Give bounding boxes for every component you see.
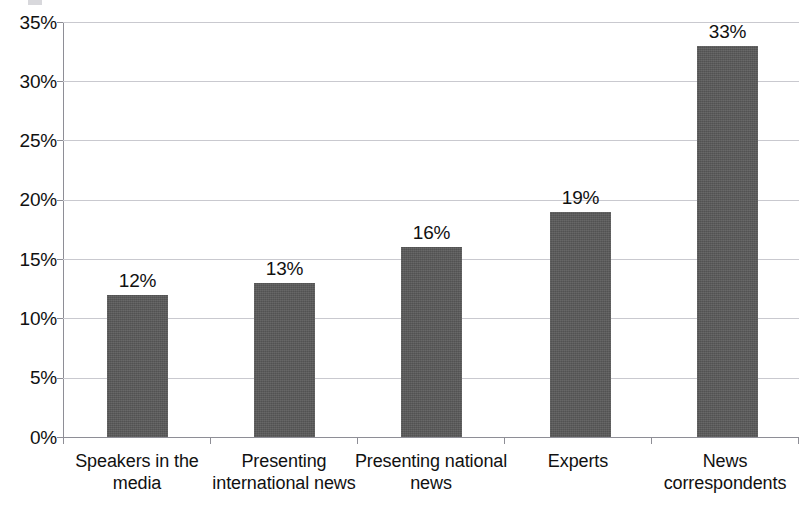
- y-axis-tick-label-5: 5%: [1, 368, 57, 387]
- bar-presenting-national-news: [401, 247, 462, 437]
- x-axis-tick-3: [504, 437, 505, 444]
- bar-value-label-2: 16%: [372, 223, 492, 242]
- bar-value-label-0: 12%: [78, 271, 198, 290]
- bar-speakers-in-the-media: [107, 295, 168, 437]
- y-axis-tick-label-25: 25%: [1, 131, 57, 150]
- x-axis-tick-0: [63, 437, 64, 444]
- bar-news-correspondents: [697, 46, 758, 437]
- x-axis-tick-2: [357, 437, 358, 444]
- y-axis-tick-label-15: 15%: [1, 250, 57, 269]
- x-axis-line: [63, 437, 799, 438]
- gridline-25: [63, 140, 799, 141]
- plot-area: 12% 13% 16% 19% 33%: [63, 22, 799, 437]
- x-axis-category-label-2: Presenting national news: [351, 450, 511, 494]
- bar-value-label-1: 13%: [225, 259, 345, 278]
- bar-chart: 35% 30% 25% 20% 15% 10% 5% 0% 12%: [0, 0, 799, 513]
- y-axis-tick-label-0: 0%: [1, 428, 57, 447]
- x-axis-category-label-4: News correspondents: [645, 450, 799, 494]
- x-axis-tick-4: [651, 437, 652, 444]
- bar-value-label-4: 33%: [668, 22, 788, 41]
- x-axis-category-label-0: Speakers in the media: [57, 450, 217, 494]
- x-axis-category-label-1: Presenting international news: [204, 450, 364, 494]
- bar-presenting-international-news: [254, 283, 315, 437]
- bar-experts: [550, 212, 611, 437]
- y-axis-tick-label-35: 35%: [1, 13, 57, 32]
- x-axis-tick-1: [210, 437, 211, 444]
- y-axis-tick-label-30: 30%: [1, 72, 57, 91]
- bar-value-label-3: 19%: [521, 188, 641, 207]
- cropped-title-artifact: [28, 0, 42, 5]
- gridline-30: [63, 81, 799, 82]
- gridline-20: [63, 200, 799, 201]
- y-axis-tick-label-10: 10%: [1, 309, 57, 328]
- x-axis-category-label-3: Experts: [498, 450, 658, 472]
- y-axis-tick-label-20: 20%: [1, 190, 57, 209]
